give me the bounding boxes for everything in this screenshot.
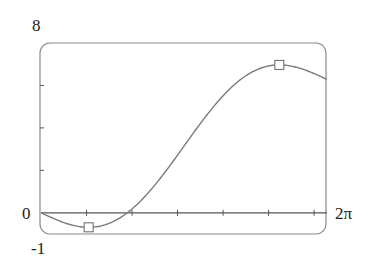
y-min-label: -1 [31,240,45,257]
function-curve [41,65,327,227]
chart-canvas [0,0,379,271]
origin-label: 0 [22,205,31,222]
plot-frame [40,43,326,234]
axes [40,85,327,215]
local-minimum-marker [84,223,93,232]
y-max-label: 8 [32,17,41,34]
local-maximum-marker [275,60,284,69]
x-max-label: 2π [335,205,352,222]
